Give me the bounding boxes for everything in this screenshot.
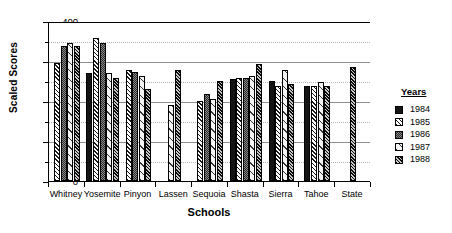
x-axis-category-label: Shasta [227, 189, 263, 199]
bar [100, 43, 106, 181]
x-axis-category-label: Sierra [263, 189, 299, 199]
bar [67, 43, 73, 181]
bar [243, 78, 249, 181]
bar [175, 70, 181, 181]
legend-item: 1985 [395, 118, 452, 127]
chart-figure: Scaled Scores 0100200300400 WhitneyYosem… [0, 0, 452, 233]
x-axis-category-label: Lassen [155, 189, 191, 199]
bar [168, 105, 174, 181]
bar [275, 86, 281, 181]
bar [86, 73, 92, 181]
bar [132, 72, 138, 181]
bar-group [192, 22, 228, 181]
x-axis-tick-mark [155, 182, 156, 187]
bar [74, 46, 80, 181]
legend-swatch-icon [395, 118, 403, 126]
x-axis-title: Schools [48, 206, 370, 218]
bar [288, 84, 294, 181]
bar-group [228, 22, 264, 181]
bar [106, 73, 112, 181]
x-axis-category-label: Pinyon [120, 189, 156, 199]
x-axis-category-label: Tahoe [298, 189, 334, 199]
bar [139, 76, 145, 181]
x-axis-tick-mark [334, 182, 335, 187]
x-axis-tick-mark [120, 182, 121, 187]
legend-item-label: 1986 [410, 130, 430, 139]
legend-item-label: 1988 [410, 155, 430, 164]
legend-item-label: 1984 [410, 105, 430, 114]
x-axis-tick-mark [227, 182, 228, 187]
bar [318, 82, 324, 181]
bar-group [49, 22, 85, 181]
bar [324, 86, 330, 181]
bar [282, 70, 288, 181]
x-axis-category-label: Sequoia [191, 189, 227, 199]
legend-item-label: 1985 [410, 118, 430, 127]
x-axis-category-label: Whitney [48, 189, 84, 199]
legend-swatch-icon [395, 156, 403, 164]
bar [93, 38, 99, 181]
bar [230, 79, 236, 181]
x-axis-category-label: Yosemite [84, 189, 120, 199]
bar-group [85, 22, 121, 181]
x-axis-category-label: State [334, 189, 370, 199]
y-axis-title: Scaled Scores [8, 18, 19, 138]
bar [249, 76, 255, 181]
legend-item: 1986 [395, 130, 452, 139]
x-axis-tick-mark [263, 182, 264, 187]
bar [61, 46, 67, 181]
x-axis-tick-mark [298, 182, 299, 187]
x-axis-tick-mark [191, 182, 192, 187]
bar [217, 81, 223, 181]
bar-group [335, 22, 371, 181]
x-axis-tick-mark [84, 182, 85, 187]
legend-item: 1988 [395, 155, 452, 164]
bar [269, 81, 275, 181]
legend-item-label: 1987 [410, 143, 430, 152]
x-axis-tick-mark [48, 182, 49, 187]
legend-title: Years [401, 86, 452, 97]
bar [145, 89, 151, 181]
y-axis-title-wrap: Scaled Scores [0, 0, 24, 200]
bar-group [121, 22, 157, 181]
legend-swatch-icon [395, 106, 403, 114]
plot-area [48, 22, 370, 182]
bar [204, 94, 210, 181]
legend-item: 1984 [395, 105, 452, 114]
bar [197, 101, 203, 181]
bar [311, 86, 317, 181]
bar [256, 64, 262, 181]
legend-swatch-icon [395, 131, 403, 139]
bar [113, 78, 119, 181]
bar-group [156, 22, 192, 181]
bar [54, 63, 60, 181]
legend-swatch-icon [395, 143, 403, 151]
bar [236, 78, 242, 181]
bar [304, 86, 310, 181]
x-axis-tick-mark [370, 182, 371, 187]
legend-item: 1987 [395, 143, 452, 152]
bar [126, 70, 132, 181]
bar-group [264, 22, 300, 181]
legend: Years 19841985198619871988 [395, 86, 452, 168]
legend-items: 19841985198619871988 [395, 105, 452, 164]
bar-group [299, 22, 335, 181]
bar [350, 67, 356, 181]
bar [210, 99, 216, 181]
